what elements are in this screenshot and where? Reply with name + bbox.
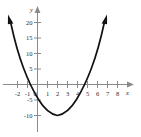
curve-right-arrowhead-icon	[102, 15, 108, 25]
y-tick-label: 5	[29, 65, 32, 72]
y-tick-label: -10	[24, 112, 33, 119]
x-axis-arrowhead-icon	[127, 82, 134, 88]
parabola-curve-group	[8, 15, 107, 116]
x-tick-label: -2	[15, 90, 20, 97]
x-axis-group	[3, 82, 134, 88]
coordinate-plane-svg: -2 -1 0 1 2 3 4 5 6 7 8 20 15 10 5 -5 -1…	[0, 0, 141, 137]
y-axis-label: y	[29, 6, 33, 13]
y-tick-label: 20	[26, 19, 33, 26]
y-axis-arrowhead-icon	[35, 6, 41, 13]
x-tick-label: 8	[116, 90, 119, 97]
x-axis-label: x	[125, 89, 129, 96]
y-tick-label: 15	[26, 34, 33, 41]
parabola-curve	[11, 22, 105, 115]
y-tick-labels: 20 15 10 5 -5 -10	[24, 19, 33, 119]
x-tick-label: 7	[106, 90, 110, 97]
y-tick-label: -5	[27, 96, 32, 103]
curve-left-arrowhead-icon	[8, 15, 13, 25]
x-tick-label: 5	[86, 90, 89, 97]
x-tick-label: 6	[96, 90, 100, 97]
x-tick-label: 3	[66, 90, 69, 97]
y-tick-label: 10	[26, 50, 33, 57]
x-tick-label: 1	[46, 90, 49, 97]
parabola-graph-figure: -2 -1 0 1 2 3 4 5 6 7 8 20 15 10 5 -5 -1…	[0, 0, 141, 137]
x-tick-label: 0	[33, 90, 36, 97]
x-tick-label: 2	[56, 90, 59, 97]
